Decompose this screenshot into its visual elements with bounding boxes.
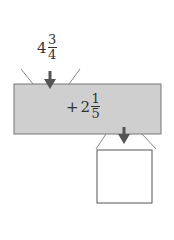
- input-numerator: 3: [48, 33, 56, 47]
- output-value[interactable]: [97, 150, 152, 203]
- operation-denominator: 5: [91, 107, 99, 121]
- output-funnel-right: [142, 134, 156, 149]
- operation-label: + 2 1 5: [66, 92, 100, 121]
- operator: +: [66, 98, 79, 116]
- output-funnel-left: [96, 134, 106, 149]
- input-denominator: 4: [48, 48, 56, 62]
- operation-numerator: 1: [91, 92, 99, 106]
- operation-whole: 2: [81, 98, 91, 116]
- input-mixed-number: 4 3 4: [37, 33, 57, 62]
- input-funnel-left: [21, 69, 33, 84]
- input-whole: 4: [37, 39, 47, 57]
- input-funnel-right: [69, 69, 80, 84]
